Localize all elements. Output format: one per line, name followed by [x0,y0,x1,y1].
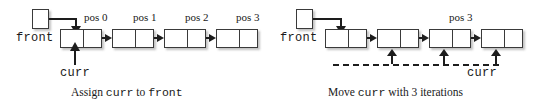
node-link-arrow [154,37,158,39]
list-node [112,29,154,48]
node-link-arrow [367,37,371,39]
node-next-cell [188,30,205,47]
front-pointer-line-horizontal [49,18,77,20]
pos-label-1: pos 1 [133,11,157,23]
caption-text-middle: to [133,86,148,98]
front-pointer-line-horizontal [313,18,342,20]
list-node [164,29,206,48]
curr-trace-riser [443,56,445,64]
front-pointer-arrow [340,18,342,27]
pos-label-0: pos 0 [84,11,108,23]
caption-mono-front: front [148,86,183,99]
front-variable-box [32,9,49,29]
list-node [216,29,258,48]
curr-label: curr [467,66,497,80]
caption-mono-curr: curr [358,86,386,99]
pos-label-3: pos 3 [236,11,260,23]
node-data-cell [165,30,188,47]
panel-caption: Move curr with 3 iterations [328,86,463,99]
panel-caption: Assign curr to front [71,86,183,99]
curr-iteration-arrow-2 [439,49,449,56]
front-pointer-arrow [75,18,77,27]
node-data-cell [217,30,240,47]
curr-trace-riser [391,56,393,64]
node-next-cell [505,30,522,47]
node-data-cell [482,30,505,47]
list-node [429,29,471,48]
node-data-cell [113,30,136,47]
curr-iteration-arrow-3 [491,49,501,56]
node-next-cell [84,30,101,47]
caption-mono-curr: curr [106,86,134,99]
pos-label-3: pos 3 [449,11,473,23]
curr-trace-riser [495,56,497,64]
front-variable-box [296,9,313,29]
node-next-cell [240,30,257,47]
curr-iteration-arrow-1 [387,49,397,56]
curr-label: curr [60,66,90,80]
caption-text-before: Move [328,86,358,98]
node-next-cell [349,30,366,47]
list-node [481,29,523,48]
pos-label-2: pos 2 [185,11,209,23]
node-data-cell [430,30,453,47]
diagram-panel-move: front pos 3 curr Move curr with 3 iterat… [271,0,542,106]
list-node [325,29,367,48]
node-data-cell [378,30,401,47]
front-label: front [16,31,54,45]
list-node [60,29,102,48]
node-link-arrow [471,37,475,39]
caption-text-before: Assign [71,86,106,98]
diagram-panel-assign: front pos 0 pos 1 pos 2 pos 3 curr Assig… [0,0,271,106]
node-link-arrow [419,37,423,39]
node-next-cell [401,30,418,47]
caption-text-middle: with 3 iterations [385,86,463,98]
node-link-arrow [102,37,106,39]
list-node [377,29,419,48]
curr-pointer-arrow [74,50,76,65]
node-link-arrow [206,37,210,39]
node-data-cell [326,30,349,47]
node-next-cell [136,30,153,47]
node-next-cell [453,30,470,47]
front-label: front [280,31,318,45]
